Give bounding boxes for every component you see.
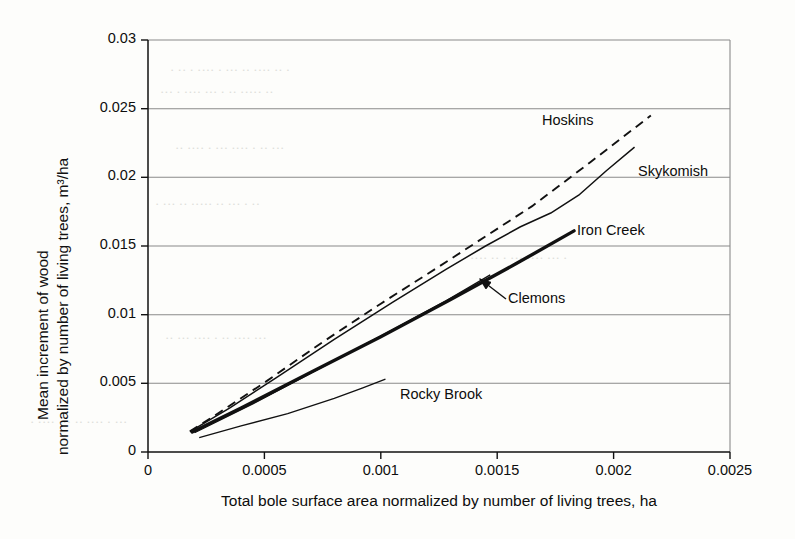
x-axis-title: Total bole surface area normalized by nu… — [148, 492, 730, 510]
series-label-clemons: Clemons — [508, 290, 565, 306]
figure-container: · ·· · ···· · ··· ·· ···· ·· · ··· · ···… — [0, 0, 795, 539]
series-label-rocky-brook: Rocky Brook — [400, 386, 482, 402]
plot-canvas — [0, 0, 795, 539]
y-tick-0.025: 0.025 — [48, 99, 136, 115]
x-tick-0.002: 0.002 — [574, 462, 654, 478]
series-label-hoskins: Hoskins — [542, 112, 594, 128]
y-axis-title-line2: normalized by number of living trees, m³… — [54, 158, 72, 455]
series-line-iron-creek — [192, 231, 574, 432]
clemons-callout-arrow — [480, 279, 506, 299]
series-label-skykomish: Skykomish — [638, 163, 708, 179]
x-tick-0: 0 — [108, 462, 188, 478]
x-axis-ticks — [148, 452, 730, 459]
x-tick-0.0015: 0.0015 — [457, 462, 537, 478]
y-axis-title-line1: Mean increment of wood — [34, 250, 52, 420]
y-axis-ticks — [141, 40, 148, 452]
series-line-rocky-brook — [199, 379, 385, 437]
gridlines — [148, 40, 730, 383]
x-tick-0.001: 0.001 — [341, 462, 421, 478]
series-line-hoskins — [190, 116, 651, 432]
x-tick-0.0005: 0.0005 — [224, 462, 304, 478]
x-tick-0.0025: 0.0025 — [690, 462, 770, 478]
series-label-iron-creek: Iron Creek — [577, 222, 645, 238]
y-tick-0.03: 0.03 — [48, 30, 136, 46]
